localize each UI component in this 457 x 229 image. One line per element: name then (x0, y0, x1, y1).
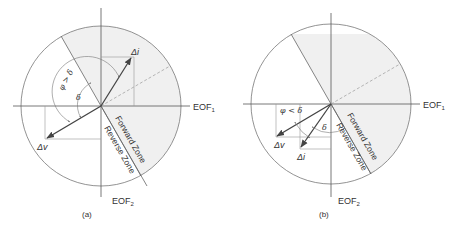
delta-v-label: Δv (36, 142, 48, 152)
eof2-label: EOF2 (112, 196, 135, 207)
delta-i-label: Δi (130, 47, 140, 57)
delta-label: δ (76, 93, 81, 102)
panel-b: φ < δ δ Δv Δi Forward Zone Reverse Zone … (243, 13, 446, 219)
eof1-label: EOF1 (423, 100, 446, 111)
delta-v-vector (47, 106, 101, 138)
diagram-canvas: φ > δ δ Δi Δv Forward Zone Reverse Zone … (0, 0, 457, 229)
delta-v-label: Δv (273, 140, 285, 150)
forward-zone-shade (291, 34, 430, 200)
forward-zone-shade (55, 26, 200, 200)
phi-label: φ > δ (57, 68, 75, 92)
panel-a: φ > δ δ Δi Δv Forward Zone Reverse Zone … (13, 8, 216, 219)
phi-arc (296, 124, 310, 138)
phi-label: φ < δ (280, 106, 302, 115)
eof2-label: EOF2 (338, 196, 361, 207)
caption-b: (b) (319, 210, 329, 219)
eof1-label: EOF1 (193, 102, 216, 113)
caption-a: (a) (82, 210, 92, 219)
delta-label: δ (322, 123, 327, 132)
delta-i-label: Δi (296, 152, 306, 162)
